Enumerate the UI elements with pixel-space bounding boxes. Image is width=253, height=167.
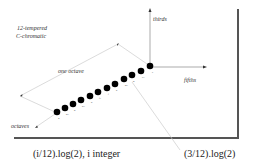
octaves-line <box>36 114 55 127</box>
thirds-arrow-icon <box>149 8 152 12</box>
svg-text:a: a <box>74 109 76 112</box>
svg-text:d: d <box>133 80 135 83</box>
title-line2: C-chromatic <box>16 33 46 39</box>
fifths-arrow-icon <box>203 66 207 69</box>
title-line1: 12-tempered <box>17 25 48 31</box>
octave-tick-bottom <box>20 96 55 112</box>
svg-text:e: e <box>116 89 118 92</box>
svg-text:g#: g# <box>82 105 85 108</box>
leader-line <box>132 82 180 150</box>
svg-text:a#: a# <box>66 113 69 116</box>
thirds-label: thirds <box>153 16 167 22</box>
octave-tick-top <box>118 44 150 66</box>
svg-text:c#: c# <box>142 76 145 79</box>
octaves-label: octaves <box>11 123 30 129</box>
fifths-label: fifths <box>184 77 197 83</box>
svg-text:f: f <box>108 93 110 96</box>
svg-text:d#: d# <box>125 84 128 87</box>
svg-text:f#: f# <box>99 97 102 100</box>
svg-text:b: b <box>58 117 60 120</box>
svg-text:g: g <box>91 101 93 104</box>
one-octave-label: one octave <box>58 68 84 74</box>
svg-text:c: c <box>152 71 154 74</box>
tonnetz-diagram: b a# a g# g f# f e d# d c# c 12-tempered… <box>0 0 253 167</box>
note-labels: b a# a g# g f# f e d# d c# c <box>58 71 154 120</box>
caption-right: (3/12).log(2) <box>184 148 235 160</box>
caption-left: (i/12).log(2), i integer <box>33 148 121 160</box>
